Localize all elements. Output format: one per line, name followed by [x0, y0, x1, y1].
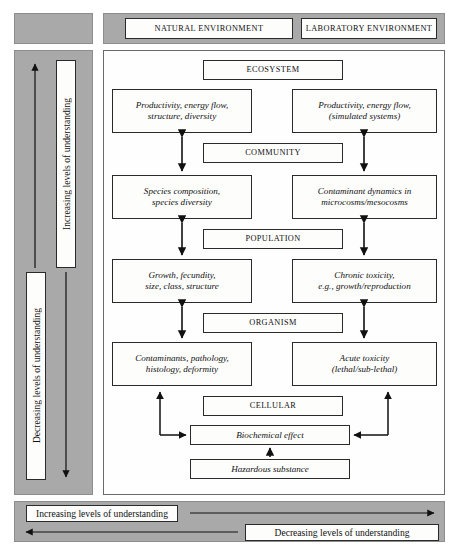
laboratory-environment-header: LABORATORY ENVIRONMENT: [301, 18, 437, 39]
natural-box-population-line2: size, class, structure: [145, 281, 218, 292]
laboratory-box-organism-line1: Acute toxicity: [332, 353, 398, 364]
header-gray-spacer: [14, 13, 93, 44]
footer-decreasing-understanding-label: Decreasing levels of understanding: [245, 524, 439, 541]
natural-box-organism-line1: Contaminants, pathology,: [135, 353, 229, 364]
laboratory-box-organism: Acute toxicity (lethal/sub-lethal): [292, 342, 437, 386]
laboratory-box-ecosystem-line1: Productivity, energy flow,: [318, 100, 411, 111]
sidebar-increasing-text: Increasing levels of understanding: [61, 98, 72, 230]
laboratory-box-population-line2: e.g., growth/reproduction: [318, 281, 410, 292]
natural-box-ecosystem-line2: structure, diversity: [136, 111, 229, 122]
laboratory-box-population-line1: Chronic toxicity,: [318, 270, 410, 281]
sidebar-increasing-understanding-label: Increasing levels of understanding: [56, 60, 76, 268]
natural-box-community: Species composition, species diversity: [112, 175, 252, 219]
stage-label-population: POPULATION: [203, 229, 343, 249]
footer-increasing-understanding-label: Increasing levels of understanding: [26, 505, 178, 522]
stage-label-organism: ORGANISM: [203, 313, 343, 333]
natural-box-organism: Contaminants, pathology, histology, defo…: [112, 342, 252, 386]
laboratory-box-community-line1: Contaminant dynamics in: [318, 186, 411, 197]
biochemical-effect-box: Biochemical effect: [190, 425, 350, 445]
natural-box-population-line1: Growth, fecundity,: [145, 270, 218, 281]
natural-box-ecosystem-line1: Productivity, energy flow,: [136, 100, 229, 111]
laboratory-box-community-line2: microcosms/mesocosms: [318, 197, 411, 208]
natural-environment-header: NATURAL ENVIRONMENT: [125, 18, 293, 39]
laboratory-box-ecosystem: Productivity, energy flow, (simulated sy…: [292, 89, 437, 133]
laboratory-box-organism-line2: (lethal/sub-lethal): [332, 364, 398, 375]
sidebar-decreasing-text: Decreasing levels of understanding: [31, 308, 42, 443]
natural-box-community-line1: Species composition,: [144, 186, 220, 197]
laboratory-box-community: Contaminant dynamics in microcosms/mesoc…: [292, 175, 437, 219]
diagram-page: NATURAL ENVIRONMENT LABORATORY ENVIRONME…: [0, 0, 460, 555]
stage-label-ecosystem: ECOSYSTEM: [203, 60, 343, 80]
natural-box-organism-line2: histology, deformity: [135, 364, 229, 375]
stage-label-cellular: CELLULAR: [203, 396, 343, 416]
natural-box-population: Growth, fecundity, size, class, structur…: [112, 259, 252, 303]
sidebar-decreasing-understanding-label: Decreasing levels of understanding: [26, 272, 46, 480]
stage-label-community: COMMUNITY: [203, 143, 343, 163]
laboratory-box-ecosystem-line2: (simulated systems): [318, 111, 411, 122]
laboratory-box-population: Chronic toxicity, e.g., growth/reproduct…: [292, 259, 437, 303]
natural-box-ecosystem: Productivity, energy flow, structure, di…: [112, 89, 252, 133]
hazardous-substance-box: Hazardous substance: [190, 459, 350, 479]
natural-box-community-line2: species diversity: [144, 197, 220, 208]
